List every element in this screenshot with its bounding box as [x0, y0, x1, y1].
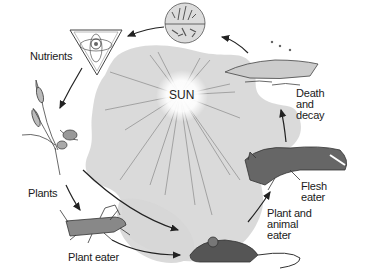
omnivore-label: Plant and animal eater — [267, 208, 312, 241]
arrow-plants-to-plant-eater — [66, 185, 80, 210]
nutrients-label: Nutrients — [30, 51, 72, 62]
arrow-nutrients-to-plants — [60, 68, 82, 108]
fox-icon — [245, 147, 347, 190]
ecological-cycle-diagram — [0, 0, 369, 279]
plant-eater-label: Plant eater — [68, 252, 119, 263]
arrow-decomposers-to-nutrients — [128, 27, 164, 36]
death-label: Death and decay — [296, 88, 324, 121]
carnivore-label: Flesh eater — [301, 181, 327, 203]
plants-label: Plants — [28, 188, 57, 199]
soil-microbes-circle-icon — [165, 3, 205, 43]
sun-label: SUN — [169, 88, 194, 102]
wheat-plant-icon — [22, 80, 78, 175]
arrow-death-to-decomposers — [222, 37, 248, 53]
